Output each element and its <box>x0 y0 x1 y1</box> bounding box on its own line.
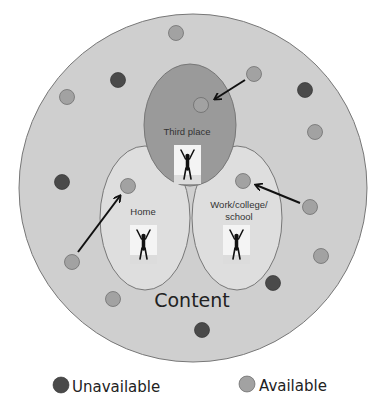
legend-available-dot <box>239 376 255 392</box>
work-label-line2: school <box>225 211 252 222</box>
unavailable-dot <box>55 175 70 190</box>
available-dot <box>65 255 80 270</box>
unavailable-dot <box>111 73 126 88</box>
person-image-work <box>223 225 250 264</box>
available-dot <box>60 90 75 105</box>
work-label-line1: Work/college/ <box>210 199 268 210</box>
content-label: Content <box>154 289 230 311</box>
available-dot <box>308 125 323 140</box>
available-dot <box>121 179 136 194</box>
third-place-label: Third place <box>164 126 211 137</box>
person-image-home <box>130 225 157 264</box>
available-dot <box>236 174 251 189</box>
content-diagram: Third place Home Work/college/ school Co… <box>0 0 378 414</box>
available-dot <box>169 26 184 41</box>
home-label: Home <box>130 206 155 217</box>
available-dot <box>247 67 262 82</box>
available-dot <box>194 98 209 113</box>
available-dot <box>314 249 329 264</box>
legend-unavailable-dot <box>53 377 69 393</box>
available-dot <box>106 292 121 307</box>
legend-available-label: Available <box>259 377 327 395</box>
available-dot <box>303 200 318 215</box>
unavailable-dot <box>266 276 281 291</box>
unavailable-dot <box>298 83 313 98</box>
legend-unavailable-label: Unavailable <box>72 378 160 396</box>
person-image-third-place <box>174 145 201 184</box>
unavailable-dot <box>195 323 210 338</box>
